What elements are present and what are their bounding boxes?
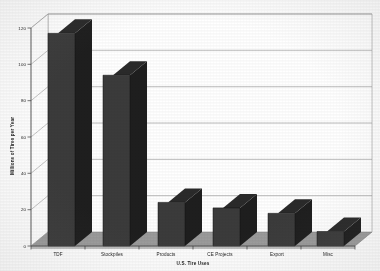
bar-front-face — [213, 208, 240, 246]
bar-stockpiles — [103, 61, 147, 246]
x-axis-title-group: U.S. Tire Uses — [177, 261, 210, 266]
y-tick-label: 80 — [21, 98, 27, 103]
y-axis-title: Millions of Tires per Year — [10, 117, 15, 175]
bar-side-face — [130, 61, 147, 246]
bar-front-face — [48, 33, 75, 246]
y-tick-label: 60 — [21, 135, 27, 140]
y-tick-label: 120 — [18, 26, 26, 31]
bar-front-face — [158, 202, 185, 246]
bar-front-face — [317, 232, 344, 247]
y-tick-labels: 0 20 40 60 80 100 120 — [18, 26, 26, 249]
y-tick-label: 0 — [23, 244, 26, 249]
bar-side-face — [75, 19, 92, 246]
x-tick-label: Export — [270, 252, 285, 257]
y-axis — [28, 28, 32, 246]
chart-canvas: 0 20 40 60 80 100 120 Millions of Tires … — [0, 0, 380, 271]
x-tick-label: Misc — [323, 252, 333, 257]
y-tick-label: 100 — [18, 62, 26, 67]
tire-use-bar-chart: 0 20 40 60 80 100 120 Millions of Tires … — [0, 0, 380, 271]
x-tick-label: Products — [157, 252, 177, 257]
x-tick-label: CE Projects — [207, 252, 233, 257]
y-axis-title-group: Millions of Tires per Year — [10, 117, 15, 175]
x-axis-title: U.S. Tire Uses — [177, 261, 210, 266]
x-tick-labels: TDF Stockpiles Products CE Projects Expo… — [53, 252, 333, 257]
x-tick-label: Stockpiles — [101, 252, 124, 257]
bar-front-face — [103, 75, 130, 246]
bar-tdf — [48, 19, 92, 246]
bar-front-face — [268, 213, 295, 246]
y-tick-label: 20 — [21, 207, 27, 212]
y-tick-label: 40 — [21, 171, 27, 176]
x-tick-label: TDF — [53, 252, 62, 257]
